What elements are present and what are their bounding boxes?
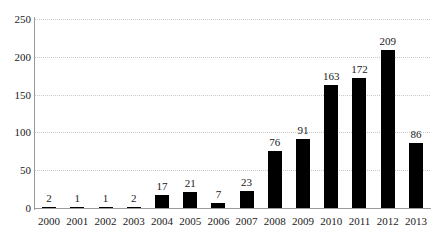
bar (240, 191, 254, 208)
x-axis-line (35, 208, 431, 209)
bar-group: 76 (261, 19, 289, 208)
bar-value-label: 91 (298, 125, 309, 136)
bar-group: 172 (345, 19, 373, 208)
bar-value-label: 209 (379, 36, 396, 47)
bar-value-label: 86 (410, 129, 421, 140)
y-axis-tick-label: 250 (1, 14, 31, 25)
bar-group: 2 (120, 19, 148, 208)
bar-group: 1 (63, 19, 91, 208)
y-axis-tick-label: 100 (1, 127, 31, 138)
bar-value-label: 163 (323, 71, 340, 82)
y-axis-tick-label: 50 (1, 165, 31, 176)
plot-area: 21121721723769116317220986 (35, 19, 430, 208)
bar (99, 207, 113, 209)
bar (296, 139, 310, 208)
bar-group: 23 (233, 19, 261, 208)
bar-chart: 050100150200250 211217217237691163172209… (0, 0, 440, 248)
bar-group: 17 (148, 19, 176, 208)
bar-value-label: 7 (216, 189, 222, 200)
bar (155, 195, 169, 208)
y-axis-tick-label: 200 (1, 51, 31, 62)
bar (324, 85, 338, 208)
x-axis-tick-label: 2013 (399, 216, 433, 227)
bar (409, 143, 423, 208)
bar-group: 7 (204, 19, 232, 208)
x-axis-tick-labels: 2000200120022003200420052006200720082009… (35, 212, 430, 232)
bar-value-label: 2 (46, 193, 52, 204)
bar-group: 86 (402, 19, 430, 208)
bar-group: 21 (176, 19, 204, 208)
bar-value-label: 17 (156, 181, 167, 192)
bar-value-label: 76 (269, 137, 280, 148)
bar (211, 203, 225, 208)
bar-group: 91 (289, 19, 317, 208)
bar (352, 78, 366, 208)
bar (183, 192, 197, 208)
bar-value-label: 1 (75, 193, 81, 204)
bar-group: 1 (92, 19, 120, 208)
bar-group: 209 (374, 19, 402, 208)
bar-value-label: 1 (103, 193, 109, 204)
y-axis-tick-label: 0 (1, 203, 31, 214)
bar (127, 207, 141, 209)
bar-group: 2 (35, 19, 63, 208)
bar (381, 50, 395, 208)
bar-group: 163 (317, 19, 345, 208)
bar-value-label: 23 (241, 177, 252, 188)
bar (268, 151, 282, 208)
bar-value-label: 2 (131, 193, 137, 204)
bar-value-label: 21 (185, 178, 196, 189)
bar-value-label: 172 (351, 64, 368, 75)
bar (42, 207, 56, 209)
y-axis-tick-label: 150 (1, 89, 31, 100)
bar (70, 207, 84, 209)
